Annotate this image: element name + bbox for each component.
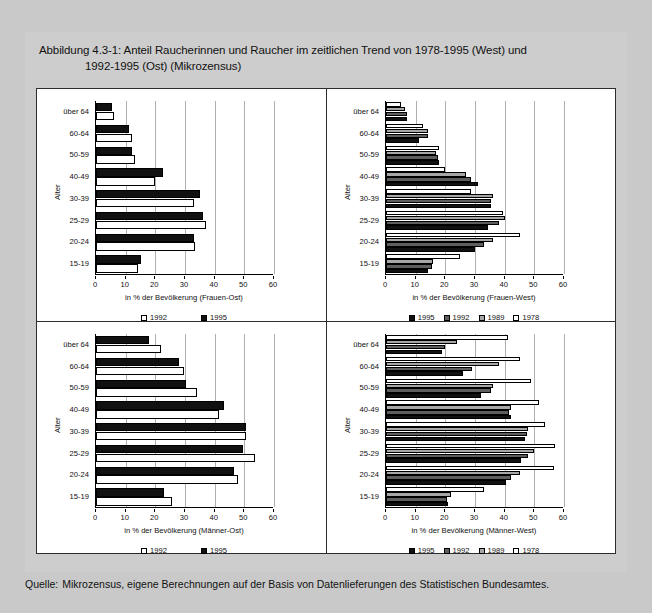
legend-item-1989[interactable]: 1989 (479, 546, 505, 555)
x-axis-tick-60: 60 (263, 513, 283, 522)
x-axis-tick-40: 40 (204, 513, 224, 522)
figure-title: Abbildung 4.3-1: Anteil Raucherinnen und… (25, 32, 627, 74)
bar-1989-40-49 (386, 172, 466, 176)
bar-group (96, 334, 273, 356)
bar-1995-15-19 (386, 502, 448, 506)
gridline (564, 101, 565, 274)
legend-item-1992[interactable]: 1992 (141, 546, 167, 555)
bar-1989-30-39 (386, 427, 528, 431)
bar-1995-25-29 (386, 458, 521, 462)
bar-1992-50-59 (386, 388, 491, 392)
legend-label: 1992 (453, 546, 470, 555)
bar-group (96, 399, 273, 421)
x-axis-tickmark (415, 276, 416, 279)
bar-group (386, 486, 563, 508)
legend-item-1978[interactable]: 1978 (513, 546, 539, 555)
bar-1992-50-59 (96, 388, 197, 396)
x-axis-tick-60: 60 (553, 513, 573, 522)
x-axis-tick-60: 60 (263, 280, 283, 289)
bar-1995-25-29 (386, 225, 488, 229)
bar-1995-30-39 (386, 437, 525, 441)
bar-group (96, 232, 273, 254)
y-axis-label-30-39: 30-39 (327, 194, 379, 203)
x-axis-tick-20: 20 (434, 280, 454, 289)
y-axis-label-50-59: 50-59 (327, 383, 379, 392)
x-axis-tickmark (243, 276, 244, 279)
source-label: Quelle: (25, 578, 58, 590)
bar-group (96, 188, 273, 210)
y-axis-label-15-19: 15-19 (327, 492, 379, 501)
x-axis-tick-20: 20 (434, 513, 454, 522)
bar-1995-40-49 (96, 168, 163, 176)
y-axis-label-25-29: 25-29 (37, 449, 89, 458)
x-axis-tick-10: 10 (115, 280, 135, 289)
bar-1978-20-24 (386, 233, 520, 237)
bar-1978-15-19 (386, 254, 460, 258)
bar-1989-60-64 (386, 129, 428, 133)
bar-1995-über-64 (386, 117, 407, 121)
y-axis-label-20-24: 20-24 (327, 237, 379, 246)
bar-1995-25-29 (96, 445, 243, 453)
chart-quadrant-maenner-west: über 6460-6450-5940-4930-3925-2920-2415-… (326, 321, 615, 553)
bar-1989-15-19 (386, 259, 433, 263)
x-axis-tick-40: 40 (204, 280, 224, 289)
source-caption: Quelle:Mikrozensus, eigene Berechnungen … (25, 578, 645, 590)
x-axis-tick-30: 30 (464, 513, 484, 522)
bar-1978-50-59 (386, 379, 531, 383)
bar-group (386, 334, 563, 356)
bar-1978-50-59 (386, 146, 439, 150)
bar-1995-30-39 (96, 190, 200, 198)
bar-1992-40-49 (386, 410, 509, 414)
bar-1995-über-64 (386, 350, 442, 354)
bar-group (386, 166, 563, 188)
x-axis-tickmark (444, 276, 445, 279)
bar-1995-60-64 (96, 358, 179, 366)
bar-group (96, 101, 273, 123)
x-axis-tick-0: 0 (85, 513, 105, 522)
legend-item-1992[interactable]: 1992 (444, 546, 470, 555)
y-axis-label-20-24: 20-24 (37, 470, 89, 479)
y-axis-label-50-59: 50-59 (327, 150, 379, 159)
y-axis-label-60-64: 60-64 (37, 362, 89, 371)
bar-group (96, 443, 273, 465)
legend-swatch-icon (444, 548, 450, 554)
x-axis-tickmark (184, 276, 185, 279)
chart-quadrant-maenner-ost: über 6460-6450-5940-4930-3925-2920-2415-… (37, 321, 326, 553)
source-text: Mikrozensus, eigene Berechnungen auf der… (62, 578, 549, 590)
x-axis-tick-10: 10 (115, 513, 135, 522)
x-axis-tickmark (95, 509, 96, 512)
bar-1992-30-39 (386, 432, 527, 436)
chart-legend: 1995199219891978 (385, 546, 563, 555)
x-axis-title: in % der Bevölkerung (Frauen-West) (385, 293, 563, 302)
bar-1995-50-59 (386, 393, 481, 397)
bar-group (386, 145, 563, 167)
legend-swatch-icon (201, 315, 207, 321)
bar-1995-über-64 (96, 103, 112, 111)
bar-1978-25-29 (386, 211, 503, 215)
x-axis-tickmark (504, 276, 505, 279)
bar-1995-40-49 (386, 415, 511, 419)
bar-1992-30-39 (386, 199, 491, 203)
bar-1992-20-24 (96, 475, 238, 483)
gridline (274, 334, 275, 507)
legend-item-1995[interactable]: 1995 (201, 546, 227, 555)
x-axis-tickmark (533, 276, 534, 279)
legend-swatch-icon (479, 548, 485, 554)
bar-1995-über-64 (96, 336, 149, 344)
bar-1992-15-19 (96, 497, 172, 505)
bar-1995-20-24 (96, 234, 194, 242)
legend-label: 1978 (522, 546, 539, 555)
figure-title-line2: 1992-1995 (Ost) (Mikrozensus) (39, 58, 613, 74)
bar-1978-über-64 (386, 102, 401, 106)
bar-1978-15-19 (386, 487, 484, 491)
x-axis-tickmark (125, 276, 126, 279)
bar-1989-über-64 (386, 107, 405, 111)
bar-1995-60-64 (96, 125, 129, 133)
bar-1989-25-29 (386, 216, 505, 220)
bar-1989-20-24 (386, 238, 493, 242)
bar-1992-über-64 (96, 112, 114, 120)
x-axis-tick-40: 40 (494, 513, 514, 522)
charts-panel: über 6460-6450-5940-4930-3925-2920-2415-… (36, 88, 616, 554)
legend-item-1995[interactable]: 1995 (409, 546, 435, 555)
legend-label: 1989 (488, 546, 505, 555)
